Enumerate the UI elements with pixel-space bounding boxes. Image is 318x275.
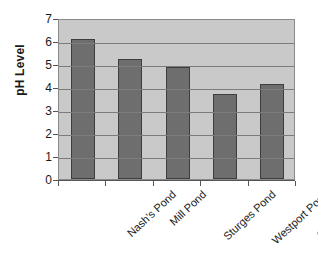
- y-axis-title: pH Level: [10, 25, 30, 115]
- y-axis-tick-label: 6: [34, 36, 52, 48]
- y-axis-tick-mark: [53, 111, 58, 112]
- x-axis-tick-mark: [248, 181, 249, 186]
- y-axis-tick-label: 1: [34, 151, 52, 163]
- x-axis-tick-mark: [105, 181, 106, 186]
- bar: [260, 84, 284, 179]
- gridline: [59, 158, 294, 159]
- gridline: [59, 112, 294, 113]
- bar: [213, 94, 237, 179]
- x-axis-tick-mark: [200, 181, 201, 186]
- x-axis-line: [58, 180, 295, 181]
- x-axis-tick-mark: [295, 181, 296, 186]
- gridline: [59, 89, 294, 90]
- gridline: [59, 135, 294, 136]
- x-axis-tick-mark: [58, 181, 59, 186]
- x-axis-category-labels: Nash's PondMill PondSturges PondWestport…: [0, 188, 318, 275]
- y-axis-tick-mark: [53, 19, 58, 20]
- bar: [166, 67, 190, 179]
- y-axis-tick-mark: [53, 65, 58, 66]
- y-axis-tick-label: 2: [34, 128, 52, 140]
- plot-area: [58, 19, 295, 180]
- y-axis-tick-label: 7: [34, 13, 52, 25]
- y-axis-tick-mark: [53, 42, 58, 43]
- y-axis-tick-label: 4: [34, 82, 52, 94]
- x-axis-category-label: Nash's Pond: [124, 188, 178, 239]
- y-axis-tick-mark: [53, 88, 58, 89]
- bar: [118, 59, 142, 179]
- gridline: [59, 66, 294, 67]
- x-axis-tick-mark: [153, 181, 154, 186]
- gridline: [59, 43, 294, 44]
- x-axis-category-label: Sturges Pond: [220, 188, 277, 242]
- y-axis-tick-mark: [53, 134, 58, 135]
- y-axis-tick-mark: [53, 157, 58, 158]
- y-axis-tick-label: 0: [34, 174, 52, 186]
- y-axis-tick-label: 3: [34, 105, 52, 117]
- y-axis-tick-labels: 76543210: [34, 19, 52, 180]
- ph-level-bar-chart: pH Level 76543210 Nash's PondMill PondSt…: [0, 0, 318, 275]
- y-axis-tick-label: 5: [34, 59, 52, 71]
